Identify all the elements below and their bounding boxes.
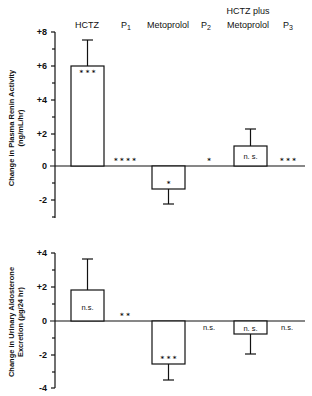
annotation-p2: *: [207, 157, 211, 165]
y-axis-label-line1: Change in Plasma Renin Activity: [7, 69, 16, 186]
annotation-metoprolol: *: [167, 180, 171, 188]
tick-label: -4: [39, 383, 47, 393]
tick-label: 0: [42, 316, 47, 326]
annotation-hctz: n.s.: [81, 303, 93, 312]
header-p2: P2: [201, 20, 211, 31]
y-axis-label-line1: Change in Urinary Aldosterone: [7, 267, 16, 377]
chart-figure: HCTZ P1 Metoprolol P2 HCTZ plus Metoprol…: [0, 0, 312, 396]
header-combo-line2: Metoprolol: [227, 20, 269, 30]
tick-label: +4: [37, 248, 47, 258]
annotation-p1: * * * *: [114, 157, 136, 165]
annotation-p2: n.s.: [203, 323, 215, 332]
annotation-metoprolol: * * *: [161, 355, 177, 363]
tick-label: +6: [37, 61, 47, 71]
y-axis-label-line2: (ng/mL/hr): [16, 109, 25, 147]
annotation-hctz: * * *: [80, 69, 96, 77]
column-headers: HCTZ P1 Metoprolol P2 HCTZ plus Metoprol…: [75, 6, 293, 31]
annotation-combo: n. s.: [243, 324, 257, 333]
tick-label: -2: [39, 350, 47, 360]
annotation-p3: n.s.: [281, 323, 293, 332]
tick-label: +2: [37, 282, 47, 292]
bar-hctz: [71, 66, 104, 166]
header-p3: P3: [283, 20, 293, 31]
annotation-p3: * * *: [280, 157, 296, 165]
header-p1: P1: [121, 20, 131, 31]
header-hctz: HCTZ: [75, 20, 99, 30]
y-axis-label-line2: Excretion (µg/24 hr): [16, 286, 25, 357]
tick-label: -2: [39, 195, 47, 205]
annotation-combo: n. s.: [243, 152, 257, 161]
annotation-p1: * *: [120, 312, 130, 320]
header-metoprolol: Metoprolol: [147, 20, 189, 30]
tick-label: +4: [37, 95, 47, 105]
tick-label: +2: [37, 129, 47, 139]
aldosterone-chart: [50, 253, 305, 388]
tick-label: +8: [37, 27, 47, 37]
renin-chart: [50, 32, 305, 218]
header-combo-line1: HCTZ plus: [226, 6, 270, 16]
tick-label: 0: [42, 161, 47, 171]
